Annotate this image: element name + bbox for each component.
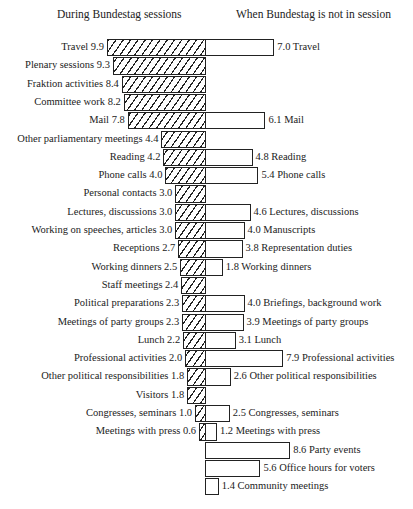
left-value-label: Reading 4.2 — [110, 150, 161, 164]
left-value-label: Congresses, seminars 1.0 — [86, 406, 192, 420]
left-bar — [175, 222, 205, 239]
left-bar — [161, 131, 205, 148]
right-value-label: 5.4 Phone calls — [261, 168, 325, 182]
left-bar — [182, 314, 205, 331]
right-bar — [205, 204, 251, 221]
left-value-label: Lunch 2.2 — [138, 333, 181, 347]
right-value-label: 5.6 Office hours for voters — [263, 461, 375, 475]
right-value-label: 1.8 Working dinners — [226, 260, 312, 274]
left-value-label: Meetings of party groups 2.3 — [58, 315, 180, 329]
left-value-label: Political preparations 2.3 — [74, 296, 179, 310]
left-bar — [163, 149, 205, 166]
right-bar — [205, 167, 258, 184]
left-bar — [128, 112, 206, 129]
right-bar — [205, 332, 236, 349]
right-value-label: 4.6 Lectures, discussions — [254, 205, 359, 219]
right-bar — [205, 314, 244, 331]
right-value-label: 7.0 Travel — [277, 40, 320, 54]
left-value-label: Fraktion activities 8.4 — [27, 77, 119, 91]
left-value-label: Working dinners 2.5 — [91, 260, 177, 274]
right-value-label: 8.6 Party events — [293, 443, 360, 457]
right-value-label: 3.1 Lunch — [239, 333, 282, 347]
left-value-label: Personal contacts 3.0 — [83, 186, 172, 200]
left-bar — [165, 167, 205, 184]
right-value-label: 4.0 Briefings, background work — [248, 296, 382, 310]
right-bar — [205, 478, 219, 495]
right-bar — [205, 112, 265, 129]
left-value-label: Lectures, discussions 3.0 — [67, 205, 172, 219]
butterfly-bar-chart: Travel 9.97.0 TravelPlenary sessions 9.3… — [0, 0, 413, 509]
right-bar — [205, 442, 290, 459]
right-value-label: 7.9 Professional activities — [286, 351, 394, 365]
right-bar — [205, 368, 231, 385]
left-value-label: Other parliamentary meetings 4.4 — [17, 132, 158, 146]
left-value-label: Meetings with press 0.6 — [96, 424, 196, 438]
left-bar — [175, 185, 205, 202]
left-value-label: Plenary sessions 9.3 — [25, 58, 110, 72]
left-bar — [113, 57, 206, 74]
left-value-label: Receptions 2.7 — [113, 241, 175, 255]
right-bar — [205, 350, 283, 367]
left-bar — [180, 259, 205, 276]
right-value-label: 4.0 Manuscripts — [248, 223, 316, 237]
left-bar — [124, 94, 206, 111]
right-value-label: 2.5 Congresses, seminars — [233, 406, 339, 420]
right-bar — [205, 240, 243, 257]
right-bar — [205, 295, 245, 312]
right-bar — [205, 222, 245, 239]
left-value-label: Phone calls 4.0 — [99, 168, 163, 182]
right-bar — [205, 405, 230, 422]
left-bar — [182, 295, 205, 312]
right-value-label: 3.9 Meetings of party groups — [247, 315, 369, 329]
left-value-label: Travel 9.9 — [61, 40, 104, 54]
right-value-label: 1.4 Community meetings — [222, 479, 328, 493]
left-value-label: Mail 7.8 — [89, 113, 125, 127]
right-value-label: 4.8 Reading — [256, 150, 307, 164]
left-value-label: Visitors 1.8 — [136, 388, 184, 402]
left-value-label: Committee work 8.2 — [34, 95, 121, 109]
left-bar — [187, 387, 205, 404]
right-bar — [205, 423, 217, 440]
left-bar — [122, 76, 206, 93]
left-bar — [175, 204, 205, 221]
left-bar — [181, 277, 205, 294]
left-value-label: Professional activities 2.0 — [74, 351, 182, 365]
right-value-label: 1.2 Meetings with press — [220, 424, 320, 438]
left-bar — [183, 332, 205, 349]
left-bar — [185, 350, 205, 367]
right-bar — [205, 149, 253, 166]
left-value-label: Other political responsibilities 1.8 — [41, 369, 184, 383]
left-bar — [178, 240, 205, 257]
left-value-label: Working on speeches, articles 3.0 — [31, 223, 172, 237]
left-value-label: Staff meetings 2.4 — [102, 278, 179, 292]
right-value-label: 6.1 Mail — [268, 113, 304, 127]
left-bar — [187, 368, 205, 385]
right-value-label: 2.6 Other political responsibilities — [234, 369, 377, 383]
right-bar — [205, 460, 260, 477]
right-bar — [205, 39, 274, 56]
right-bar — [205, 259, 223, 276]
left-bar — [107, 39, 206, 56]
right-value-label: 3.8 Representation duties — [246, 241, 352, 255]
